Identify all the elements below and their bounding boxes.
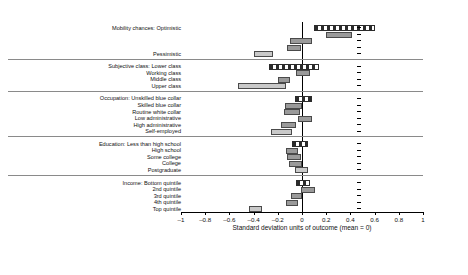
group-separator [8, 91, 423, 92]
category-label: Education: Less than high school [11, 141, 181, 147]
x-axis-tick [205, 212, 206, 215]
y-axis-tick [357, 156, 361, 157]
category-label: Low administrative [11, 115, 181, 121]
y-axis-tick [357, 118, 361, 119]
group-separator [8, 136, 423, 137]
x-axis-tick [254, 212, 255, 215]
x-axis-tick-label: –0.8 [199, 216, 211, 223]
x-axis-tick [181, 212, 182, 215]
x-axis-tick-label: 0.8 [394, 216, 403, 223]
y-axis-tick [357, 85, 361, 86]
x-axis-tick [399, 212, 400, 215]
interval-bar [238, 83, 286, 89]
category-label: Routine white collar [11, 109, 181, 115]
category-label: Top quintile [11, 206, 181, 212]
interval-bar-row [181, 50, 423, 58]
x-axis-tick-label: –0.2 [272, 216, 284, 223]
category-label: Pessimistic [11, 51, 181, 57]
y-axis-tick [357, 124, 361, 125]
x-axis-label: Standard deviation units of outcome (mea… [181, 224, 423, 231]
y-axis-tick [357, 98, 361, 99]
category-label: 2nd quintile [11, 186, 181, 192]
category-label: Mobility chances: Optimistic [11, 25, 181, 31]
x-axis-tick-label: –0.6 [223, 216, 235, 223]
y-axis-tick [357, 202, 361, 203]
y-axis-tick [357, 105, 361, 106]
category-label: High administrative [11, 122, 181, 128]
category-label: Income: Bottom quintile [11, 180, 181, 186]
y-axis-tick [357, 40, 361, 41]
group-separator [8, 59, 423, 60]
x-axis-tick [375, 212, 376, 215]
category-label: Subjective class: Lower class [11, 63, 181, 69]
category-label: Working class [11, 70, 181, 76]
y-axis-tick [357, 27, 361, 28]
category-label: Self-employed [11, 128, 181, 134]
y-axis-tick [357, 47, 361, 48]
x-axis-tick [302, 212, 303, 215]
category-label: Skilled blue collar [11, 102, 181, 108]
x-axis-tick-label: 0.4 [346, 216, 355, 223]
x-axis-tick [278, 212, 279, 215]
category-label: 4th quintile [11, 199, 181, 205]
category-label: Occupation: Unskilled blue collar [11, 95, 181, 101]
category-label: 3rd quintile [11, 193, 181, 199]
x-axis-tick [423, 212, 424, 215]
category-label: College [11, 160, 181, 166]
interval-bar [295, 167, 308, 173]
interval-bar-row [181, 166, 423, 174]
y-axis-tick [357, 150, 361, 151]
y-axis-tick [357, 169, 361, 170]
x-axis-tick-label: –1 [178, 216, 185, 223]
category-labels: Mobility chances: OptimisticPessimisticS… [11, 22, 181, 212]
category-label: Middle class [11, 76, 181, 82]
y-axis-tick [357, 111, 361, 112]
y-axis-tick [357, 72, 361, 73]
y-axis-tick [357, 195, 361, 196]
category-label: Some college [11, 154, 181, 160]
category-label: Postgraduate [11, 167, 181, 173]
x-axis: –1–0.8–0.6–0.4–0.200.20.40.60.81 [181, 212, 423, 213]
y-axis-tick [357, 163, 361, 164]
x-axis-tick [326, 212, 327, 215]
category-label: Upper class [11, 83, 181, 89]
interval-bar-row [181, 82, 423, 90]
y-axis-tick [357, 34, 361, 35]
x-axis-tick-label: 0 [300, 216, 303, 223]
y-axis-tick [357, 143, 361, 144]
interval-bar [271, 129, 293, 135]
x-axis-tick [350, 212, 351, 215]
x-axis-tick [229, 212, 230, 215]
category-label: High school [11, 147, 181, 153]
y-axis-tick [357, 53, 361, 54]
interval-bar [254, 51, 273, 57]
y-axis-tick [357, 189, 361, 190]
x-axis-tick-label: 1 [421, 216, 424, 223]
y-axis-tick [357, 79, 361, 80]
y-axis-tick [357, 208, 361, 209]
figure-chart: Mobility chances: OptimisticPessimisticS… [0, 0, 468, 275]
y-axis-tick [357, 66, 361, 67]
group-separator [8, 175, 423, 176]
plot-area [181, 22, 423, 212]
interval-bar-row [181, 128, 423, 136]
x-axis-tick-label: –0.4 [248, 216, 260, 223]
y-axis-tick [357, 182, 361, 183]
y-axis-tick [357, 131, 361, 132]
x-axis-tick-label: 0.6 [370, 216, 379, 223]
x-axis-tick-label: 0.2 [322, 216, 331, 223]
